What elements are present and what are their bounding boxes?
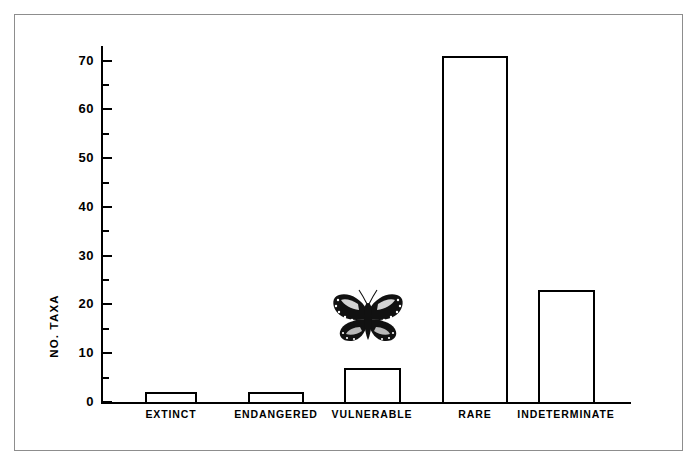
y-axis-tick-label: 20 xyxy=(54,296,94,311)
x-axis-category-label: ENDANGERED xyxy=(234,408,318,420)
y-axis-tick-major xyxy=(103,255,112,257)
bar xyxy=(442,56,508,404)
y-axis-tick-minor xyxy=(103,84,109,86)
butterfly-illustration-icon xyxy=(330,286,406,348)
bar xyxy=(344,368,401,404)
bar xyxy=(538,290,595,404)
bar xyxy=(145,392,197,404)
y-axis-tick-label: 40 xyxy=(54,199,94,214)
x-axis-category-label: RARE xyxy=(458,408,491,420)
y-axis-tick-minor xyxy=(103,230,109,232)
y-axis-tick-major xyxy=(103,206,112,208)
y-axis-tick-minor xyxy=(103,377,109,379)
y-axis-title: NO. TAXA xyxy=(48,266,60,386)
y-axis-tick-minor xyxy=(103,328,109,330)
y-axis-tick-major xyxy=(103,108,112,110)
y-axis-tick-label: 50 xyxy=(54,150,94,165)
y-axis-tick-label: 30 xyxy=(54,248,94,263)
bar-chart-plot: NO. TAXA 010203040506070 EXTINCTENDANGER… xyxy=(0,0,696,465)
y-axis-line xyxy=(101,46,103,403)
y-axis-tick-major xyxy=(103,60,112,62)
x-axis-category-label: EXTINCT xyxy=(145,408,196,420)
y-axis-tick-major xyxy=(103,157,112,159)
y-axis-tick-label: 10 xyxy=(54,345,94,360)
y-axis-tick-label: 60 xyxy=(54,101,94,116)
y-axis-tick-label: 0 xyxy=(54,394,94,409)
y-axis-tick-minor xyxy=(103,133,109,135)
y-axis-tick-minor xyxy=(103,182,109,184)
bar xyxy=(248,392,304,404)
figure-canvas: NO. TAXA 010203040506070 EXTINCTENDANGER… xyxy=(0,0,696,465)
y-axis-tick-minor xyxy=(103,279,109,281)
y-axis-tick-major xyxy=(103,401,112,403)
x-axis-category-label: VULNERABLE xyxy=(332,408,413,420)
y-axis-tick-major xyxy=(103,352,112,354)
x-axis-category-label: INDETERMINATE xyxy=(517,408,614,420)
y-axis-tick-label: 70 xyxy=(54,53,94,68)
y-axis-tick-major xyxy=(103,303,112,305)
